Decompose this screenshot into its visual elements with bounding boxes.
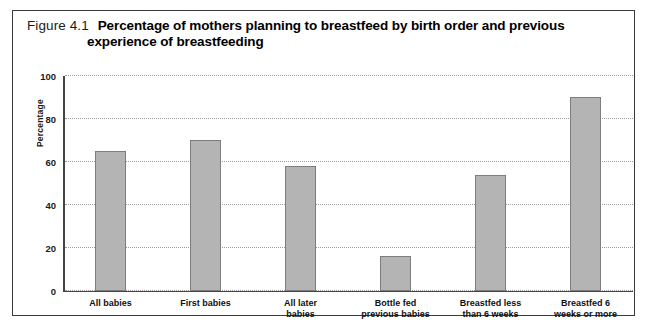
figure-title-line-2: experience of breastfeeding xyxy=(87,34,619,50)
bar-4 xyxy=(475,175,506,291)
bar-5 xyxy=(570,97,601,290)
gridline-80 xyxy=(65,118,633,119)
x-axis-line xyxy=(63,291,633,293)
gridline-20 xyxy=(65,247,633,248)
y-tick-label-40: 40 xyxy=(45,199,56,210)
x-tick-label-0: All babies xyxy=(59,298,163,309)
plot-area: 020406080100 All babiesFirst babiesAll l… xyxy=(63,76,633,292)
x-tick-label-4: Breastfed less than 6 weeks xyxy=(439,298,543,320)
figure-caption: Figure 4.1 Percentage of mothers plannin… xyxy=(27,17,619,50)
y-axis-title: Percentage xyxy=(35,99,45,147)
x-tick-label-5: Breastfed 6 weeks or more xyxy=(534,298,638,320)
y-tick-label-0: 0 xyxy=(51,285,56,296)
bar-2 xyxy=(285,166,316,290)
x-tick-label-2: All later babies xyxy=(249,298,353,320)
bar-0 xyxy=(95,151,126,290)
x-tick-label-3: Bottle fed previous babies xyxy=(344,298,448,320)
y-tick-label-20: 20 xyxy=(45,242,56,253)
gridline-0 xyxy=(65,290,633,291)
figure-frame: Figure 4.1 Percentage of mothers plannin… xyxy=(12,10,635,316)
bar-1 xyxy=(190,140,221,290)
gridline-100 xyxy=(65,75,633,76)
bar-3 xyxy=(380,256,411,290)
gridline-40 xyxy=(65,204,633,205)
y-tick-label-60: 60 xyxy=(45,156,56,167)
x-tick-label-1: First babies xyxy=(154,298,258,309)
y-tick-label-80: 80 xyxy=(45,113,56,124)
gridline-60 xyxy=(65,161,633,162)
figure-title-line-1: Percentage of mothers planning to breast… xyxy=(98,18,565,33)
figure-number: Figure 4.1 xyxy=(27,18,89,33)
y-tick-label-100: 100 xyxy=(40,71,56,82)
y-axis-line xyxy=(63,76,65,292)
